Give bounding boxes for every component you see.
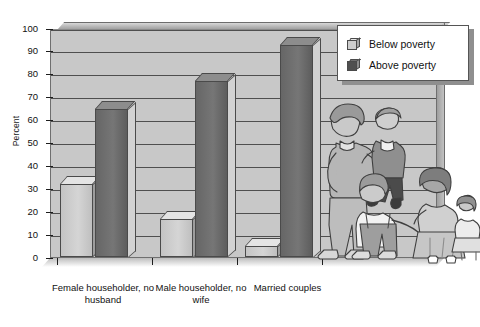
x-tick-mark <box>152 258 153 265</box>
x-category-label: Female householder, no husband <box>48 282 158 306</box>
family-illustration <box>300 96 480 266</box>
bar-side-face <box>128 102 136 258</box>
bar-front-face <box>245 246 278 257</box>
legend-label-below: Below poverty <box>369 38 435 50</box>
legend-item-below: Below poverty <box>347 33 468 54</box>
bar-below-poverty-2 <box>245 238 278 257</box>
bar-front-face <box>60 184 93 257</box>
bar-front-face <box>95 109 128 258</box>
cube-light-icon <box>347 38 360 50</box>
x-tick-mark <box>237 258 238 265</box>
x-category-label: Married couples <box>240 282 335 294</box>
legend: Below poverty Above poverty <box>337 25 469 81</box>
bar-below-poverty-1 <box>160 211 193 258</box>
bar-front-face <box>160 219 193 258</box>
bar-above-poverty-0 <box>95 101 128 258</box>
bar-above-poverty-1 <box>195 73 228 257</box>
legend-label-above: Above poverty <box>369 59 436 71</box>
x-tick-mark <box>57 258 58 265</box>
bar-below-poverty-0 <box>60 176 93 257</box>
bar-chart: Percent 1009080706050403020100 Female ho… <box>0 0 480 327</box>
bar-side-face <box>228 74 236 257</box>
cube-dark-icon <box>347 59 360 71</box>
bar-front-face <box>195 81 228 257</box>
legend-item-above: Above poverty <box>347 54 468 75</box>
